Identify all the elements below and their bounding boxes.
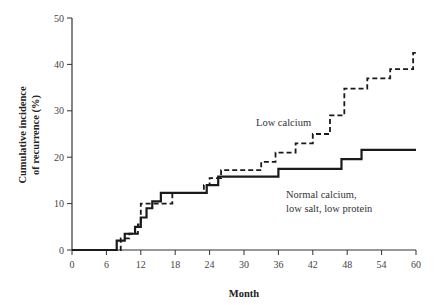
x-tick-label: 6 (104, 259, 109, 270)
recurrence-step-chart: 01020304050 06121824303642485460 Month C… (0, 0, 435, 305)
x-axis-title: Month (229, 288, 259, 299)
y-axis-title-line2: of recurrence (%) (30, 94, 42, 175)
y-tick-label: 50 (54, 13, 64, 24)
annotation-low-calcium: Low calcium (256, 117, 311, 128)
x-tick-label: 36 (273, 259, 283, 270)
y-tick-label: 40 (54, 59, 64, 70)
x-tick-label: 54 (377, 259, 387, 270)
x-tick-label: 18 (170, 259, 180, 270)
y-axis-title: Cumulative incidence of recurrence (%) (17, 86, 42, 183)
annotation-normal-calcium-line2: low salt, low protein (286, 203, 373, 214)
y-tick-label: 10 (54, 198, 64, 209)
y-axis: 01020304050 (54, 13, 72, 256)
low-calcium-line (72, 53, 416, 250)
x-tick-label: 60 (411, 259, 421, 270)
y-tick-label: 0 (59, 245, 64, 256)
x-tick-label: 0 (70, 259, 75, 270)
annotation-normal-calcium-line1: Normal calcium, (286, 189, 357, 200)
x-tick-label: 12 (136, 259, 146, 270)
x-tick-label: 30 (239, 259, 249, 270)
x-tick-label: 48 (342, 259, 352, 270)
y-tick-label: 30 (54, 105, 64, 116)
x-axis: 06121824303642485460 (70, 250, 422, 270)
x-tick-label: 24 (205, 259, 215, 270)
normal-calcium-line (72, 150, 416, 250)
x-tick-label: 42 (308, 259, 318, 270)
y-tick-label: 20 (54, 152, 64, 163)
y-axis-title-line1: Cumulative incidence (17, 86, 28, 183)
series-layer (72, 53, 416, 250)
